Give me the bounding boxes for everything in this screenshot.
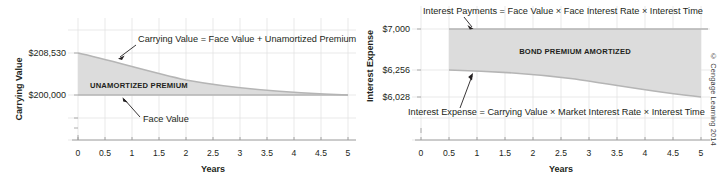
interest-expense-leader-line [460, 76, 472, 108]
x-tick-label-0: 0 [76, 148, 81, 158]
x-tick-label-2: 1 [130, 148, 135, 158]
x-tick-label-2: 1 [475, 148, 480, 158]
x-tick-label-10: 5 [699, 148, 704, 158]
y-axis-title: Interest Expense [365, 30, 375, 102]
y-tick-label-mid: $6,256 [382, 65, 410, 75]
axis-ticks [74, 53, 78, 140]
x-tick-label-6: 3 [587, 148, 592, 158]
face-value-arrowhead [123, 97, 128, 102]
x-tick-label-9: 4.5 [667, 148, 679, 158]
x-tick-label-5: 2.5 [207, 148, 219, 158]
x-tick-label-8: 4 [292, 148, 297, 158]
interest-expense-chart-panel: BOND PREMIUM AMORTIZED $7,000 $6,256 $6,… [360, 0, 719, 176]
y-tick-label-top: $7,000 [382, 24, 410, 34]
x-tick-label-3: 1.5 [153, 148, 165, 158]
x-tick-label-0: 0 [419, 148, 424, 158]
x-tick-label-8: 4 [643, 148, 648, 158]
x-tick-label-1: 0.5 [443, 148, 455, 158]
x-tick-label-6: 3 [238, 148, 243, 158]
x-tick-label-1: 0.5 [99, 148, 111, 158]
carrying-value-chart-panel: UNAMORTIZED PREMIUM $208,530 $200,000 Ca… [0, 0, 360, 176]
x-tick-label-4: 2 [184, 148, 189, 158]
x-tick-label-9: 4.5 [315, 148, 327, 158]
y-tick-label-upper: $208,530 [28, 48, 66, 58]
x-tick-label-5: 2.5 [555, 148, 567, 158]
interest-expense-annotation-text: Interest Expense = Carrying Value × Mark… [408, 107, 705, 117]
unamortized-premium-label: UNAMORTIZED PREMIUM [90, 81, 188, 90]
carrying-value-annotation-text: Carrying Value = Face Value + Unamortize… [138, 34, 357, 44]
x-tick-label-3: 1.5 [499, 148, 511, 158]
copyright-credit: © Cengage Learning 2014 [709, 52, 718, 146]
x-axis-title: Years [549, 164, 573, 174]
y-axis-title: Carrying Value [14, 57, 24, 120]
bond-premium-amortized-label: BOND PREMIUM AMORTIZED [519, 47, 631, 56]
axis-ticks [417, 29, 421, 133]
y-tick-label-lower: $200,000 [28, 90, 66, 100]
x-tick-label-7: 3.5 [611, 148, 623, 158]
interest-payments-annotation-text: Interest Payments = Face Value × Face In… [423, 6, 703, 16]
face-value-annotation-text: Face Value [143, 114, 189, 124]
x-tick-label-7: 3.5 [261, 148, 273, 158]
bond-premium-amortized-area [449, 29, 701, 97]
y-tick-label-bottom: $6,028 [382, 92, 410, 102]
bond-premium-figure: UNAMORTIZED PREMIUM $208,530 $200,000 Ca… [0, 0, 719, 176]
x-axis-title: Years [201, 164, 225, 174]
x-tick-label-4: 2 [531, 148, 536, 158]
x-tick-label-10: 5 [346, 148, 351, 158]
carrying-value-leader-line [120, 45, 136, 57]
